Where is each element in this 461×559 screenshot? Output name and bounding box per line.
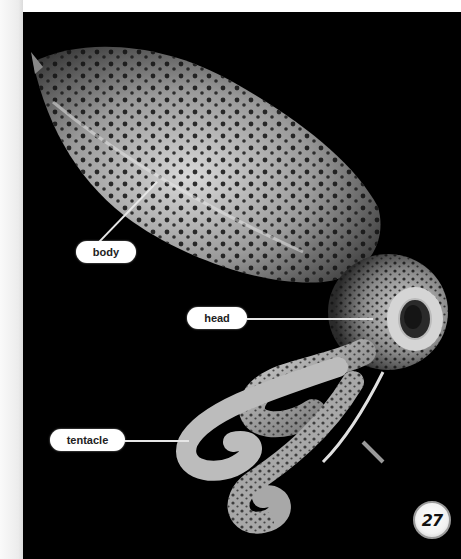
page-number: 27	[422, 511, 442, 530]
tentacle-leader-line	[125, 440, 189, 442]
page-number-badge: 27	[413, 501, 451, 539]
tentacle-label-text: tentacle	[67, 434, 109, 446]
top-page-margin	[0, 0, 461, 12]
body-label: body	[76, 241, 136, 263]
squid-photo: body head tentacle	[23, 12, 461, 559]
body-label-text: body	[93, 246, 119, 258]
head-label-text: head	[204, 312, 230, 324]
left-page-margin	[0, 0, 23, 559]
squid-tentacles	[186, 352, 383, 523]
head-leader-line	[247, 318, 373, 320]
squid-illustration	[23, 12, 461, 559]
tentacle-label: tentacle	[50, 429, 125, 451]
head-label: head	[187, 307, 247, 329]
